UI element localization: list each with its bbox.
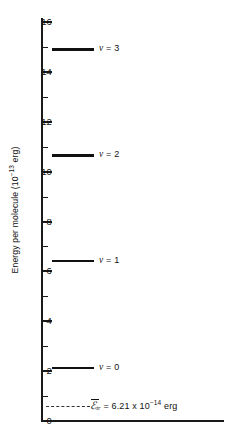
y-tick-label-wrap-2: 2	[0, 366, 52, 376]
y-tick-label-wrap-0: 0	[0, 416, 52, 426]
energy-level-line-v1	[52, 260, 94, 262]
y-minor-tick-7	[43, 246, 48, 247]
y-tick-label-wrap-4: 4	[0, 316, 52, 326]
y-tick-label-8: 8	[32, 217, 52, 227]
y-tick-label-12: 12	[32, 117, 52, 127]
energy-level-label-v2: v = 2	[99, 149, 119, 159]
y-tick-label-wrap-6: 6	[0, 266, 52, 276]
y-tick-label-14: 14	[32, 67, 52, 77]
mean-energy-dashed-line	[46, 406, 90, 407]
quantum-number-value: = 3	[103, 43, 119, 53]
y-minor-tick-3	[43, 346, 48, 347]
y-tick-label-wrap-16: 16	[0, 17, 52, 27]
y-minor-tick-13	[43, 97, 48, 98]
energy-level-label-v3: v = 3	[99, 43, 119, 53]
mean-energy-value: = 6.21 x 10	[101, 401, 150, 411]
y-tick-label-wrap-14: 14	[0, 67, 52, 77]
y-tick-label-6: 6	[32, 266, 52, 276]
y-minor-tick-9	[43, 197, 48, 198]
y-tick-label-wrap-8: 8	[0, 217, 52, 227]
mean-energy-units: erg	[161, 401, 177, 411]
mean-energy-annotation: ℰtr = 6.21 x 10−14 erg	[90, 399, 177, 412]
energy-level-line-v3	[52, 48, 94, 50]
quantum-number-value: = 2	[103, 149, 119, 159]
y-tick-label-16: 16	[32, 17, 52, 27]
x-axis-line	[41, 420, 224, 422]
mean-energy-exponent: −14	[150, 399, 161, 406]
mean-energy-subscript: tr	[96, 404, 101, 411]
y-minor-tick-15	[43, 47, 48, 48]
quantum-number-value: = 0	[103, 362, 119, 372]
energy-level-label-v0: v = 0	[99, 362, 119, 372]
mean-energy-symbol: ℰtr	[90, 399, 101, 411]
y-minor-tick-1	[43, 396, 48, 397]
y-tick-label-wrap-10: 10	[0, 167, 52, 177]
energy-level-line-v2	[52, 154, 94, 156]
y-tick-label-10: 10	[32, 167, 52, 177]
y-axis-title: Energy per molecule (10−13 erg)	[10, 110, 20, 310]
energy-level-diagram: Energy per molecule (10−13 erg) 02468101…	[0, 0, 231, 438]
energy-level-label-v1: v = 1	[99, 255, 119, 265]
energy-level-line-v0	[52, 367, 94, 369]
y-tick-label-4: 4	[32, 316, 52, 326]
y-tick-label-wrap-12: 12	[0, 117, 52, 127]
quantum-number-value: = 1	[103, 255, 119, 265]
y-minor-tick-5	[43, 296, 48, 297]
y-tick-label-2: 2	[32, 366, 52, 376]
y-axis-title-suffix: erg)	[10, 147, 20, 165]
y-minor-tick-11	[43, 147, 48, 148]
y-tick-label-0: 0	[32, 416, 52, 426]
